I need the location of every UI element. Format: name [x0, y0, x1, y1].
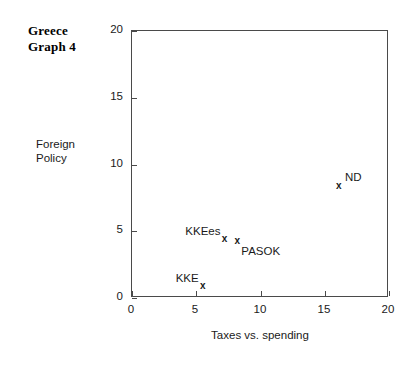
x-tick-label-10: 10 — [247, 303, 273, 315]
x-tick-label-20: 20 — [375, 303, 401, 315]
x-tick-20 — [389, 291, 390, 296]
y-axis-label-line-1: Policy — [36, 151, 75, 165]
y-axis-label-line-0: Foreign — [36, 137, 75, 151]
y-tick-15 — [132, 98, 137, 99]
x-tick-label-5: 5 — [182, 303, 208, 315]
data-point-label-kkees: KKEes — [185, 225, 220, 238]
y-tick-label-0: 0 — [101, 290, 123, 302]
y-tick-label-5: 5 — [101, 223, 123, 235]
x-axis-tick-labels: 05101520 — [131, 303, 388, 319]
data-point-marker-icon: x — [221, 233, 229, 244]
y-tick-label-10: 10 — [101, 157, 123, 169]
x-tick-5 — [196, 291, 197, 296]
x-tick-label-15: 15 — [311, 303, 337, 315]
data-point-marker-icon: x — [233, 235, 241, 246]
data-point-marker-icon: x — [199, 280, 207, 291]
y-tick-10 — [132, 165, 137, 166]
data-point-marker-icon: x — [335, 180, 343, 191]
y-tick-label-15: 15 — [101, 90, 123, 102]
chart-title-line-0: Greece — [28, 23, 76, 39]
data-point-label-pasok: PASOK — [241, 245, 280, 258]
scatter-chart-figure: GreeceGraph 4 ForeignPolicy Taxes vs. sp… — [0, 0, 416, 365]
y-tick-5 — [132, 231, 137, 232]
y-tick-label-20: 20 — [101, 23, 123, 35]
data-point-label-kke: KKE — [176, 272, 199, 285]
y-axis-tick-labels: 05101520 — [101, 30, 123, 297]
x-axis-label: Taxes vs. spending — [131, 329, 389, 341]
y-tick-20 — [132, 31, 137, 32]
x-tick-10 — [261, 291, 262, 296]
y-tick-0 — [132, 298, 137, 299]
x-tick-0 — [132, 291, 133, 296]
y-axis-label: ForeignPolicy — [36, 137, 75, 165]
x-tick-label-0: 0 — [118, 303, 144, 315]
plot-area: xNDxKKEesxPASOKxKKE — [131, 30, 388, 297]
chart-title-line-1: Graph 4 — [28, 39, 76, 55]
data-point-label-nd: ND — [345, 171, 362, 184]
chart-title: GreeceGraph 4 — [28, 23, 76, 55]
x-tick-15 — [325, 291, 326, 296]
